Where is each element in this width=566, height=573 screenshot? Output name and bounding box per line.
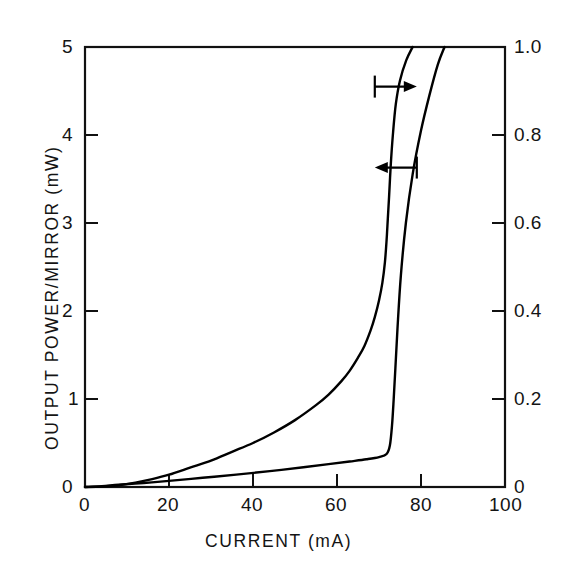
x-tick-label-40: 40 [241, 494, 263, 516]
figure-container: 5 4 3 2 1 0 1.0 0.8 0.6 0.4 0.2 0 0 20 4… [0, 0, 566, 573]
x-axis-title: CURRENT (mA) [205, 531, 352, 552]
y-tick-label-left-1: 1 [68, 388, 79, 410]
y-tick-label-right-0p4: 0.4 [514, 300, 542, 322]
x-tick-label-20: 20 [157, 494, 179, 516]
y-tick-label-left-2: 2 [62, 300, 73, 322]
x-tick-label-80: 80 [410, 494, 432, 516]
y-tick-label-right-1p0: 1.0 [514, 36, 542, 58]
y-tick-label-left-3: 3 [62, 212, 73, 234]
y-tick-label-left-0: 0 [62, 476, 73, 498]
y-tick-label-left-4: 4 [62, 124, 73, 146]
x-tick-label-100: 100 [489, 494, 522, 516]
y-tick-label-left-5: 5 [62, 36, 73, 58]
y-tick-label-right-0p6: 0.6 [514, 212, 542, 234]
x-tick-label-60: 60 [325, 494, 347, 516]
y-tick-label-right-0p8: 0.8 [514, 124, 542, 146]
x-tick-label-0: 0 [79, 494, 90, 516]
y-tick-label-right-0p2: 0.2 [514, 388, 542, 410]
chart-canvas [0, 0, 566, 573]
y-axis-title: OUTPUT POWER/MIRROR (mW) [42, 146, 63, 450]
